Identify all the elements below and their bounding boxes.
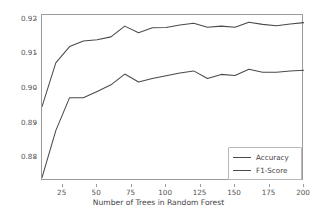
x-tick-label: 100 — [150, 189, 180, 196]
x-tick-mark — [62, 184, 63, 187]
y-tick-mark — [34, 157, 37, 158]
legend-label: F1-Score — [256, 167, 287, 174]
x-tick-mark — [131, 184, 132, 187]
x-tick-label: 75 — [116, 189, 146, 196]
x-tick-label: 50 — [81, 189, 111, 196]
y-tick-mark — [34, 53, 37, 54]
y-tick-mark — [34, 123, 37, 124]
x-tick-mark — [234, 184, 235, 187]
legend-line-icon — [233, 170, 251, 171]
x-tick-mark — [269, 184, 270, 187]
legend-item-accuracy: Accuracy — [233, 151, 289, 164]
x-tick-label: 125 — [185, 189, 215, 196]
x-axis-tick-labels: 255075100125150175200 — [0, 184, 317, 196]
y-tick-mark — [34, 88, 37, 89]
y-tick-label: 0.89 — [7, 119, 37, 126]
x-tick-mark — [200, 184, 201, 187]
x-tick-label: 25 — [47, 189, 77, 196]
x-axis-label: Number of Trees in Random Forest — [0, 198, 317, 207]
chart-legend: Accuracy F1-Score — [228, 147, 302, 180]
legend-line-icon — [233, 157, 251, 158]
x-tick-label: 150 — [219, 189, 249, 196]
y-tick-label: 0.90 — [7, 84, 37, 91]
x-tick-mark — [303, 184, 304, 187]
y-tick-label: 0.92 — [7, 15, 37, 22]
y-tick-label: 0.91 — [7, 49, 37, 56]
x-tick-mark — [165, 184, 166, 187]
y-tick-mark — [34, 19, 37, 20]
series-line-accuracy — [42, 22, 304, 106]
chart-figure: 0.880.890.900.910.92 2550751001251501752… — [0, 0, 317, 219]
x-tick-label: 200 — [288, 189, 317, 196]
y-tick-label: 0.88 — [7, 153, 37, 160]
legend-label: Accuracy — [256, 154, 289, 161]
x-tick-mark — [96, 184, 97, 187]
x-tick-label: 175 — [254, 189, 284, 196]
legend-item-f1-score: F1-Score — [233, 164, 287, 177]
